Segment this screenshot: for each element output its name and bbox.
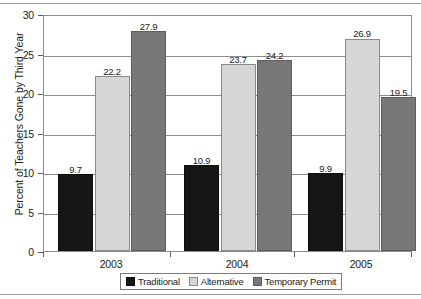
y-axis-tick (38, 213, 43, 214)
x-axis-tick (411, 252, 412, 257)
bar-value-label: 10.9 (193, 155, 211, 166)
bar-2005-alternative (345, 39, 380, 252)
bar-value-label: 9.9 (319, 163, 332, 174)
y-axis-tick (38, 252, 43, 253)
bar-value-label: 27.9 (140, 21, 158, 32)
y-axis-tick (38, 173, 43, 174)
chart-legend: TraditionalAlternativeTemporary Permit (120, 273, 342, 290)
legend-label: Temporary Permit (265, 276, 337, 287)
bar-2003-traditional (58, 174, 93, 251)
legend-item-temporary: Temporary Permit (253, 276, 337, 287)
bar-2005-temporary (381, 97, 416, 251)
legend-swatch-icon (126, 277, 135, 286)
legend-swatch-icon (253, 277, 262, 286)
x-axis-tick (43, 252, 44, 257)
y-axis-labels: 051015202530 (0, 0, 43, 299)
y-axis-tick-label: 25 (0, 49, 34, 61)
x-axis-category-label: 2004 (226, 258, 249, 270)
bar-2003-alternative (95, 76, 130, 251)
bar-value-label: 19.5 (390, 87, 408, 98)
bar-value-label: 26.9 (353, 28, 371, 39)
y-axis-tick (38, 134, 43, 135)
legend-label: Alternative (201, 276, 244, 287)
y-axis-tick (38, 15, 43, 16)
bar-2004-alternative (221, 64, 256, 251)
page-rule-bottom (0, 294, 421, 295)
bar-2005-traditional (308, 173, 343, 251)
bar-2003-temporary (131, 31, 166, 251)
plot-area: 9.722.227.910.923.724.29.926.919.5 (43, 15, 412, 252)
bar-value-label: 22.2 (103, 66, 121, 77)
bar-value-label: 23.7 (229, 54, 247, 65)
y-axis-tick-label: 10 (0, 167, 34, 179)
y-axis-tick-label: 20 (0, 88, 34, 100)
y-axis-tick (38, 94, 43, 95)
x-axis-category-label: 2005 (350, 258, 373, 270)
bar-value-label: 24.2 (266, 50, 284, 61)
legend-label: Traditional (138, 276, 180, 287)
x-axis-tick (294, 252, 295, 257)
page-rule-top (0, 3, 421, 4)
legend-swatch-icon (189, 277, 198, 286)
bar-value-label: 9.7 (69, 164, 82, 175)
y-axis-tick (38, 55, 43, 56)
y-axis-tick-label: 5 (0, 207, 34, 219)
bar-2004-temporary (257, 60, 292, 251)
legend-item-alternative: Alternative (189, 276, 244, 287)
chart-page: Percent of Teachers Gone by Third Year 0… (0, 0, 421, 299)
y-axis-tick-label: 15 (0, 128, 34, 140)
legend-item-traditional: Traditional (126, 276, 180, 287)
x-axis-tick (170, 252, 171, 257)
x-axis-category-label: 2003 (100, 258, 123, 270)
bar-2004-traditional (184, 165, 219, 251)
y-axis-tick-label: 30 (0, 9, 34, 21)
y-axis-tick-label: 0 (0, 246, 34, 258)
